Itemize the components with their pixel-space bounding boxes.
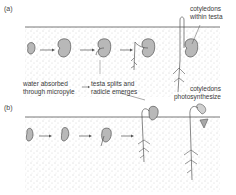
part-a-label: (a) (4, 5, 13, 12)
seed-a1 (28, 43, 35, 54)
soil-b (25, 117, 220, 192)
label-water-absorbed: water absorbed through micropyle (23, 80, 75, 95)
seed-b1 (26, 128, 33, 141)
label-testa-splits: testa splits and radicle emerges (91, 80, 137, 95)
label-cotyledons-photosynthesize: cotyledons photosynthesize (174, 85, 221, 100)
label-cotyledons-within-testa: cotyledons within testa (190, 5, 223, 20)
part-b-label: (b) (4, 104, 13, 111)
seed-a2 (58, 39, 71, 57)
